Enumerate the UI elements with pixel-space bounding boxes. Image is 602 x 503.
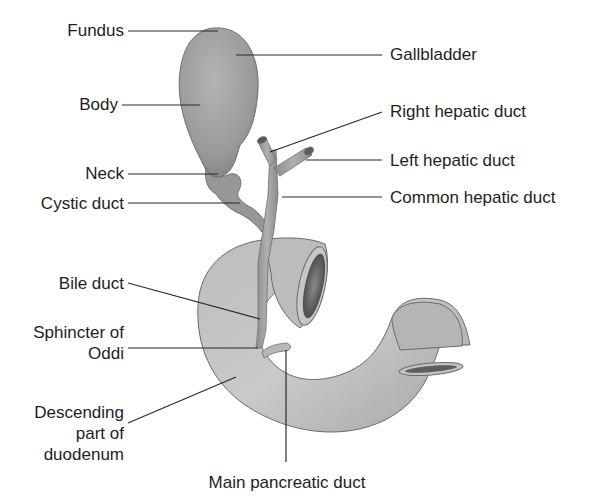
duodenum: [198, 238, 470, 432]
label-sphincter-line1: Sphincter of: [33, 322, 124, 343]
label-cystic-duct: Cystic duct: [41, 193, 124, 214]
label-body: Body: [79, 94, 118, 115]
label-sphincter-of-oddi: Sphincter of Oddi: [33, 322, 124, 364]
biliary-anatomy-diagram: Fundus Gallbladder Body Right hepatic du…: [0, 0, 602, 503]
label-descending-line2: part of: [34, 423, 124, 444]
label-fundus: Fundus: [67, 20, 124, 41]
label-neck: Neck: [85, 163, 124, 184]
label-bile-duct: Bile duct: [59, 273, 124, 294]
label-descending-line1: Descending: [34, 402, 124, 423]
label-left-hepatic-duct: Left hepatic duct: [390, 150, 515, 171]
gallbladder-organ: [179, 28, 268, 232]
label-descending-duodenum: Descending part of duodenum: [34, 402, 124, 465]
label-sphincter-line2: Oddi: [33, 343, 124, 364]
label-gallbladder: Gallbladder: [390, 44, 477, 65]
label-right-hepatic-duct: Right hepatic duct: [390, 101, 526, 122]
label-descending-line3: duodenum: [34, 444, 124, 465]
label-common-hepatic-duct: Common hepatic duct: [390, 187, 555, 208]
leader-descending: [128, 377, 236, 423]
leader-right-hepatic: [270, 112, 382, 152]
label-main-pancreatic-duct: Main pancreatic duct: [192, 472, 382, 493]
